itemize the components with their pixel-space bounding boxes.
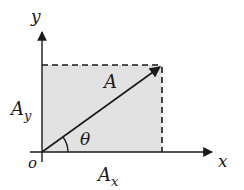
y-axis-label: y [30, 6, 41, 26]
y-component-main: A [9, 98, 24, 119]
vector-a-label: A [102, 71, 117, 92]
origin-label: o [28, 154, 37, 172]
angle-theta-label: θ [80, 129, 90, 149]
x-component-subscript: x [111, 174, 119, 189]
x-axis-label: x [218, 151, 228, 171]
y-component-subscript: y [23, 108, 32, 123]
x-component-label: Ax [96, 164, 119, 189]
y-component-label: Ay [9, 98, 32, 123]
vector-component-diagram: y x o A θ Ay Ax [0, 0, 244, 190]
x-component-main: A [96, 164, 111, 185]
